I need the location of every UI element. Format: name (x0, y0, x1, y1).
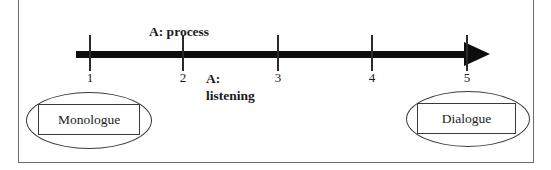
tick-mark-4 (371, 35, 373, 71)
dialogue-box: Dialogue (417, 103, 516, 134)
tick-label-5: 5 (455, 70, 479, 85)
tick-label-3: 3 (266, 70, 290, 85)
tick-mark-3 (277, 35, 279, 71)
annotation-listening: A: listening (206, 70, 255, 104)
timeline-arrow-shaft (76, 51, 466, 58)
tick-mark-5 (466, 35, 468, 71)
monologue-box: Monologue (38, 104, 140, 135)
annotation-process: A: process (149, 23, 209, 40)
dialogue-label: Dialogue (442, 111, 492, 127)
tick-mark-1 (89, 35, 91, 71)
tick-mark-2 (182, 35, 184, 71)
tick-label-4: 4 (360, 70, 384, 85)
diagram-canvas: 1 2 3 4 5 A: process A: listening Monolo… (0, 0, 551, 170)
monologue-label: Monologue (58, 112, 120, 128)
tick-label-2: 2 (171, 70, 195, 85)
tick-label-1: 1 (78, 70, 102, 85)
